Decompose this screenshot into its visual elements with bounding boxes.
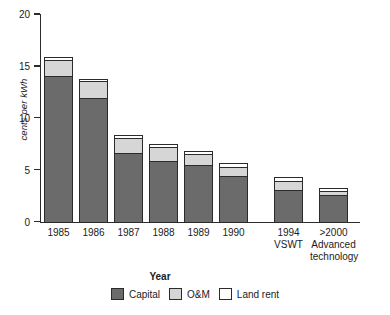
legend-swatch-cap xyxy=(111,288,124,300)
bar-stack xyxy=(79,80,108,222)
bar-segment-om xyxy=(44,60,73,78)
x-tick-label-line: 1988 xyxy=(152,227,174,238)
bar-segment-cap xyxy=(79,98,108,222)
legend-label: Land rent xyxy=(237,289,279,300)
x-tick-label-line: 1987 xyxy=(117,227,139,238)
x-tick-label-line: 1994 xyxy=(277,227,299,238)
bar-stack xyxy=(274,178,303,221)
chart-figure: cents per kWh 05101520 19851986198719881… xyxy=(0,0,390,315)
bar-stack xyxy=(149,145,178,221)
x-tick-label-line: 1989 xyxy=(187,227,209,238)
bar-stack xyxy=(44,58,73,222)
bar-segment-cap xyxy=(184,165,213,222)
x-tick-label-line: VSWT xyxy=(265,239,312,251)
legend-label: Capital xyxy=(129,289,160,300)
x-tick-label: 1990 xyxy=(210,227,257,239)
plot-area xyxy=(0,0,390,315)
bar-stack xyxy=(219,164,248,222)
chart-legend: CapitalO&MLand rent xyxy=(0,288,390,300)
x-tick-label: 1994VSWT xyxy=(265,227,312,251)
bar-segment-cap xyxy=(274,190,303,221)
bar-segment-om xyxy=(79,81,108,100)
bar-segment-om xyxy=(114,138,143,155)
x-tick-label-line: 1985 xyxy=(47,227,69,238)
bar-stack xyxy=(184,153,213,222)
x-tick-label: >2000Advancedtechnology xyxy=(310,227,357,263)
bar-segment-om xyxy=(149,147,178,163)
x-tick-label-line: Advanced xyxy=(310,239,357,251)
x-tick-label-line: technology xyxy=(310,251,357,263)
legend-swatch-land xyxy=(219,288,232,300)
legend-item: Capital xyxy=(111,288,160,300)
bar-segment-cap xyxy=(114,153,143,222)
x-tick-label-line: 1990 xyxy=(222,227,244,238)
legend-item: Land rent xyxy=(219,288,279,300)
legend-label: O&M xyxy=(187,289,210,300)
bar-segment-cap xyxy=(44,76,73,221)
x-axis-title: Year xyxy=(0,271,320,282)
bar-segment-cap xyxy=(319,195,348,222)
bar-segment-cap xyxy=(219,176,248,222)
bar-segment-cap xyxy=(149,161,178,221)
x-tick-label-line: 1986 xyxy=(82,227,104,238)
bar-stack xyxy=(114,136,143,222)
bar-stack xyxy=(319,189,348,222)
x-tick-label-line: >2000 xyxy=(319,227,347,238)
legend-item: O&M xyxy=(169,288,210,300)
legend-swatch-om xyxy=(169,288,182,300)
